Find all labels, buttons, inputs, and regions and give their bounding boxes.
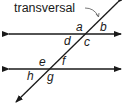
angle-label-f: f [62,54,67,68]
angle-label-a: a [76,20,83,34]
transversal-label: transversal [14,1,75,15]
angle-label-c: c [84,35,90,49]
angle-label-d: d [64,34,71,48]
label-pointer-arrow [85,8,98,16]
transversal-line [16,2,118,102]
angle-label-g: g [47,70,54,84]
angle-label-b: b [100,20,107,34]
transversal-diagram: transversal a b d c e f h g [0,0,122,109]
angle-label-h: h [27,69,34,83]
angle-label-e: e [39,55,46,69]
